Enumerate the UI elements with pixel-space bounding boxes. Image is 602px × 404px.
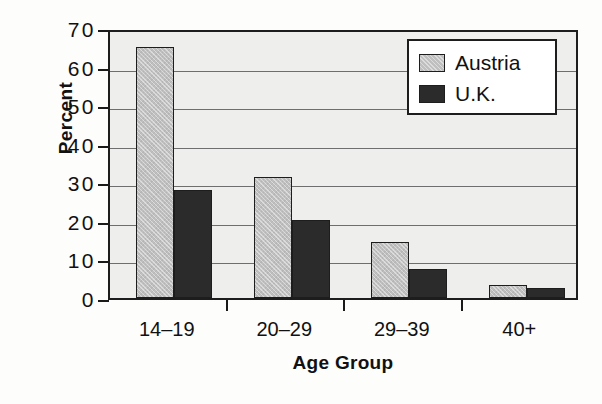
x-axis-tick-label: 40+ — [502, 318, 536, 341]
x-axis-title: Age Group — [108, 352, 578, 374]
y-axis-tick-label: 40 — [44, 134, 96, 158]
bar-uk-1 — [292, 220, 330, 298]
bar-chart-figure: Percent 010203040506070 14–1920–2929–394… — [0, 0, 602, 404]
legend-item-austria: Austria — [419, 47, 555, 78]
bar-uk-3 — [527, 288, 565, 298]
y-axis-tick-label: 10 — [44, 249, 96, 273]
x-axis-tick-mark — [226, 300, 228, 311]
legend-swatch-icon — [419, 85, 445, 103]
y-axis-tick-label: 20 — [44, 211, 96, 235]
legend-label: Austria — [455, 51, 520, 75]
legend-label: U.K. — [455, 82, 496, 106]
x-axis-tick-label: 14–19 — [139, 318, 195, 341]
x-axis-tick-mark — [461, 300, 463, 311]
y-axis-tick-label-group: 010203040506070 — [44, 30, 96, 300]
legend: AustriaU.K. — [407, 39, 557, 115]
bar-austria-1 — [254, 177, 292, 299]
bar-austria-0 — [136, 47, 174, 298]
x-axis-tick-mark — [343, 300, 345, 311]
y-axis-tick-label: 70 — [44, 18, 96, 42]
gridline — [110, 148, 576, 149]
x-axis-tick-label: 29–39 — [374, 318, 430, 341]
bar-uk-0 — [174, 190, 212, 298]
x-axis-tick-label: 20–29 — [256, 318, 312, 341]
y-axis-tick-label: 60 — [44, 57, 96, 81]
y-axis-tick-label: 50 — [44, 95, 96, 119]
bar-uk-2 — [409, 269, 447, 298]
gridline — [110, 186, 576, 187]
bar-austria-2 — [371, 242, 409, 298]
legend-item-uk: U.K. — [419, 78, 555, 109]
bar-austria-3 — [489, 285, 527, 298]
y-axis-tick-label: 0 — [44, 288, 96, 312]
legend-swatch-icon — [419, 54, 445, 72]
y-axis-tick-label: 30 — [44, 172, 96, 196]
y-axis-tick-mark — [98, 300, 109, 302]
